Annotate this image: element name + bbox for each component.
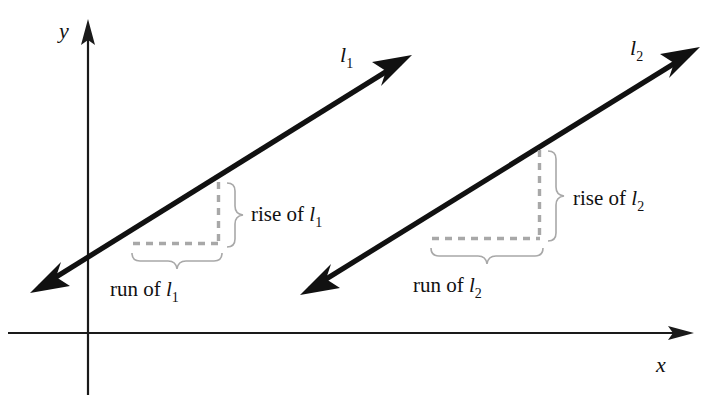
slope-triangle-l1: rise of l1 run of l1 xyxy=(110,182,322,305)
line-l1-arrowhead-upper xyxy=(372,55,412,86)
slope-triangle-l2: rise of l2 run of l2 xyxy=(413,150,644,301)
run-label-l1: run of l1 xyxy=(110,277,179,305)
run-label-l1-text: run of xyxy=(110,277,161,301)
rise-brace-l1 xyxy=(227,183,243,247)
x-axis-label: x xyxy=(655,352,666,377)
line-l2-arrowhead-upper xyxy=(660,47,700,78)
rise-label-l2: rise of l2 xyxy=(573,186,644,214)
rise-label-l1-sub: 1 xyxy=(315,215,322,230)
run-brace-l2 xyxy=(431,248,543,264)
rise-brace-l2 xyxy=(548,151,564,241)
rise-label-l2-text: rise of xyxy=(573,186,626,210)
line-l2-label-subscript: 2 xyxy=(636,49,643,64)
line-l1-label: l1 xyxy=(340,42,353,71)
run-label-l2-sub: 2 xyxy=(475,286,482,301)
run-label-l1-sub: 1 xyxy=(172,290,179,305)
line-l1-label-subscript: 1 xyxy=(346,56,353,71)
run-label-l2-text: run of xyxy=(413,273,464,297)
y-axis-label: y xyxy=(57,18,69,43)
line-l2-label: l2 xyxy=(630,35,643,64)
line-l1-arrowhead-lower xyxy=(30,262,70,293)
line-l2-arrowhead-lower xyxy=(300,264,340,295)
run-brace-l1 xyxy=(132,253,222,269)
line-l1-segment xyxy=(40,63,400,287)
run-label-l2: run of l2 xyxy=(413,273,482,301)
rise-label-l1: rise of l1 xyxy=(251,202,322,230)
rise-label-l2-sub: 2 xyxy=(637,199,644,214)
slope-diagram-figure: x y l1 l2 xyxy=(0,0,718,403)
line-l2-segment xyxy=(310,55,688,289)
rise-label-l1-text: rise of xyxy=(251,202,304,226)
diagram-canvas: x y l1 l2 xyxy=(0,0,718,403)
